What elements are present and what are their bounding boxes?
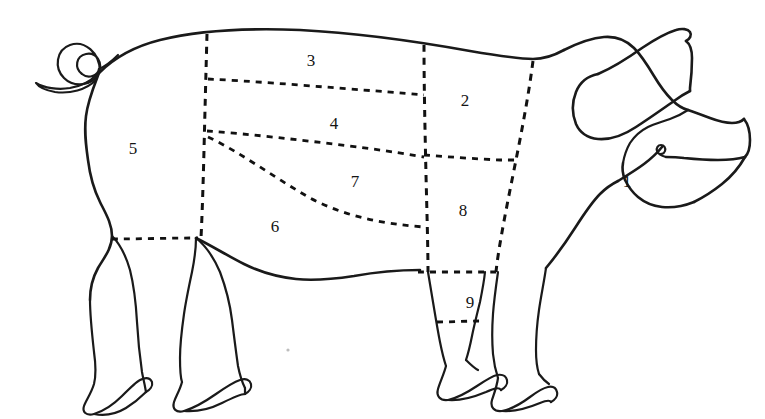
cut-label-4: 4: [330, 115, 339, 132]
cut-label-1: 1: [623, 173, 632, 190]
cutline-loin-lower-horizontal: [207, 131, 424, 157]
hind-leg-front: [173, 238, 251, 412]
cutline-ham-rear-horizontal: [112, 238, 198, 239]
pig-cuts-diagram: 1 2 3 4 5 6 7 8 9: [0, 0, 765, 419]
pig-outline-drawing: [0, 0, 765, 419]
cut-label-9: 9: [466, 294, 475, 311]
cutline-loin-upper-horizontal: [208, 79, 424, 95]
cut-label-5: 5: [129, 140, 138, 157]
belly-outline: [196, 238, 420, 280]
cut-label-6: 6: [271, 218, 280, 235]
cutline-shoulder-front-vertical: [496, 61, 533, 272]
scan-speck: [286, 348, 289, 351]
rear-ham-outline: [85, 73, 112, 300]
cut-label-8: 8: [459, 202, 468, 219]
head-outline: [546, 37, 688, 268]
cutline-loin-rear-vertical: [201, 34, 207, 238]
back-outline: [99, 29, 564, 73]
hind-leg-rear: [83, 236, 152, 415]
cutline-shoulder-rear-vertical: [424, 45, 428, 272]
cut-label-2: 2: [461, 92, 470, 109]
cut-label-3: 3: [307, 52, 316, 69]
cutline-hock-lower-horizontal: [437, 321, 480, 322]
cut-label-7: 7: [351, 173, 360, 190]
cutline-shoulder-mid-horizontal: [424, 155, 515, 160]
